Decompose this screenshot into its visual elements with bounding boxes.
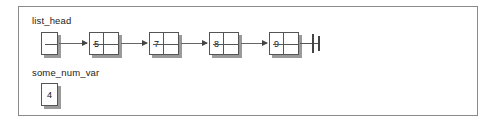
list-node: 8 [209, 32, 239, 55]
head-pointer-stub [45, 44, 58, 45]
list-node: 9 [269, 32, 299, 55]
head-pointer-box [41, 32, 58, 55]
list-node: 5 [89, 32, 119, 55]
some-num-var-value: 4 [42, 84, 57, 105]
node-pointer-stub [273, 44, 299, 45]
node-pointer-stub [153, 44, 179, 45]
linked-list-figure-panel: list_head 5 7 8 9 [18, 6, 478, 116]
arrow-head-to-node-1 [59, 43, 87, 44]
arrow-node-3-to-node-4 [241, 43, 267, 44]
linked-list-row: 5 7 8 9 [19, 7, 477, 115]
null-terminator-icon [300, 34, 322, 53]
arrow-node-2-to-node-3 [181, 43, 207, 44]
list-node: 7 [149, 32, 179, 55]
null-terminator-bar-inner [318, 36, 320, 51]
null-terminator-line [300, 43, 320, 44]
some-num-var-box: 4 [41, 83, 58, 106]
node-pointer-stub [213, 44, 239, 45]
null-terminator-bar-outer [312, 34, 314, 53]
node-pointer-stub [93, 44, 119, 45]
some-num-var-label: some_num_var [32, 67, 99, 78]
arrow-node-1-to-node-2 [121, 43, 147, 44]
